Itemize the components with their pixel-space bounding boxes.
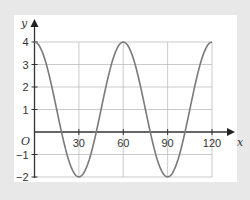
- origin-label: O: [21, 135, 30, 148]
- chart: 306090120−2−11234 x y O: [0, 0, 250, 200]
- grid-lines: [35, 42, 213, 177]
- y-tick-label: 1: [22, 104, 28, 116]
- x-tick-label: 120: [203, 137, 221, 149]
- y-tick-label: 4: [22, 36, 28, 48]
- x-axis-label: x: [237, 136, 244, 149]
- x-tick-label: 60: [117, 137, 129, 149]
- y-tick-label: 3: [22, 59, 28, 71]
- y-tick-label: 2: [22, 81, 28, 93]
- y-axis-label: y: [20, 17, 28, 30]
- y-axis-arrow-icon: [31, 19, 39, 27]
- x-tick-label: 30: [73, 137, 85, 149]
- y-tick-label: −1: [16, 149, 29, 161]
- y-tick-label: −2: [16, 171, 29, 183]
- x-tick-label: 90: [162, 137, 174, 149]
- x-axis-arrow-icon: [227, 128, 235, 136]
